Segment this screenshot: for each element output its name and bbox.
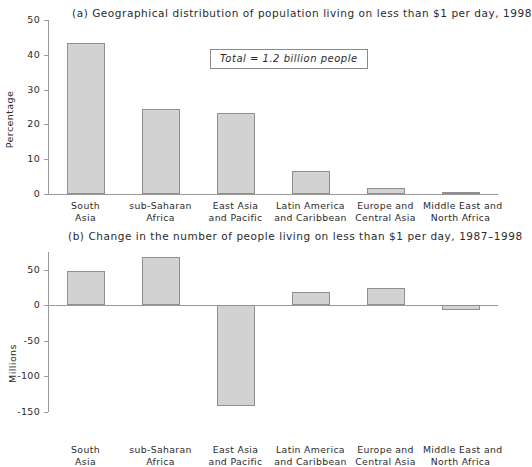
y-tick-b xyxy=(44,412,48,413)
category-label: East Asiaand Pacific xyxy=(198,200,273,223)
category-label-line: Asia xyxy=(48,212,123,224)
category-label-line: Europe and xyxy=(348,444,423,456)
y-tick-label-b: -50 xyxy=(2,335,40,346)
y-tick-label-b: 50 xyxy=(2,264,40,275)
category-label-line: Latin America xyxy=(273,200,348,212)
y-tick-b xyxy=(44,376,48,377)
category-label: East Asiaand Pacific xyxy=(198,444,273,467)
y-tick-b xyxy=(44,305,48,306)
panel-a-y-axis xyxy=(48,20,49,194)
panel-b-zero-line xyxy=(48,305,498,306)
y-tick-label-b: -100 xyxy=(2,370,40,381)
y-tick-a xyxy=(44,194,48,195)
y-tick-label-a: 40 xyxy=(2,49,40,60)
category-label: sub-SaharanAfrica xyxy=(123,444,198,467)
category-label: SouthAsia xyxy=(48,444,123,467)
category-label-line: South xyxy=(48,200,123,212)
category-label-line: and Caribbean xyxy=(273,456,348,467)
bar xyxy=(142,257,180,305)
bar xyxy=(442,305,480,310)
category-label-line: Africa xyxy=(123,456,198,467)
category-label-line: East Asia xyxy=(198,200,273,212)
category-label-line: sub-Saharan xyxy=(123,200,198,212)
category-label-line: North Africa xyxy=(423,212,498,224)
category-label: Europe andCentral Asia xyxy=(348,200,423,223)
category-label-line: Latin America xyxy=(273,444,348,456)
category-label-line: North Africa xyxy=(423,456,498,467)
category-label: SouthAsia xyxy=(48,200,123,223)
y-tick-a xyxy=(44,159,48,160)
bar xyxy=(367,188,405,194)
category-label-line: Africa xyxy=(123,212,198,224)
category-label-line: East Asia xyxy=(198,444,273,456)
y-tick-b xyxy=(44,341,48,342)
y-tick-a xyxy=(44,55,48,56)
y-tick-a xyxy=(44,20,48,21)
category-label-line: Central Asia xyxy=(348,456,423,467)
bar xyxy=(292,292,330,306)
bar xyxy=(217,113,255,194)
panel-b: (b) Change in the number of people livin… xyxy=(0,228,502,447)
bar xyxy=(67,271,105,305)
category-label: Middle East andNorth Africa xyxy=(423,444,498,467)
panel-b-plot-area: 500-50-100-150SouthAsiasub-SaharanAfrica… xyxy=(48,252,498,412)
category-label-line: sub-Saharan xyxy=(123,444,198,456)
category-label: sub-SaharanAfrica xyxy=(123,200,198,223)
bar xyxy=(142,109,180,194)
bar xyxy=(292,171,330,194)
bar xyxy=(67,43,105,194)
category-label-line: Middle East and xyxy=(423,200,498,212)
panel-a: (a) Geographical distribution of populat… xyxy=(0,0,502,228)
y-tick-label-a: 0 xyxy=(2,188,40,199)
category-label: Latin Americaand Caribbean xyxy=(273,444,348,467)
category-label: Latin Americaand Caribbean xyxy=(273,200,348,223)
category-label-line: Asia xyxy=(48,456,123,467)
y-tick-label-b: -150 xyxy=(2,406,40,417)
panel-a-x-axis xyxy=(48,194,498,195)
category-label: Middle East andNorth Africa xyxy=(423,200,498,223)
category-label-line: South xyxy=(48,444,123,456)
y-tick-label-a: 10 xyxy=(2,153,40,164)
y-tick-a xyxy=(44,124,48,125)
bar xyxy=(367,288,405,305)
y-tick-label-a: 20 xyxy=(2,118,40,129)
bar xyxy=(442,192,480,194)
category-label-line: Central Asia xyxy=(348,212,423,224)
category-label: Europe andCentral Asia xyxy=(348,444,423,467)
panel-b-y-axis xyxy=(48,252,49,412)
category-label-line: and Caribbean xyxy=(273,212,348,224)
panel-a-title: (a) Geographical distribution of populat… xyxy=(72,7,532,19)
y-tick-b xyxy=(44,270,48,271)
panel-b-title: (b) Change in the number of people livin… xyxy=(68,230,523,242)
bar xyxy=(217,305,255,406)
y-tick-label-a: 50 xyxy=(2,14,40,25)
category-label-line: and Pacific xyxy=(198,212,273,224)
y-tick-a xyxy=(44,90,48,91)
category-label-line: Europe and xyxy=(348,200,423,212)
y-tick-label-b: 0 xyxy=(2,299,40,310)
y-tick-label-a: 30 xyxy=(2,84,40,95)
category-label-line: Middle East and xyxy=(423,444,498,456)
category-label-line: and Pacific xyxy=(198,456,273,467)
panel-a-plot-area: 01020304050SouthAsiasub-SaharanAfricaEas… xyxy=(48,20,498,194)
